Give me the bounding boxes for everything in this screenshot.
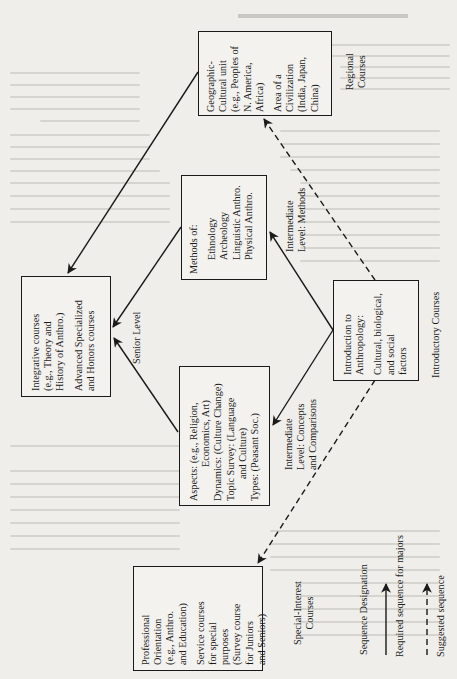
aspects-line-3: Dynamics: (Culture Change) <box>212 383 224 501</box>
methods-line-3: Archeology <box>218 185 230 260</box>
integrative-line-3: History of Anthro.) <box>54 300 66 391</box>
box-introduction: Introduction to Anthropology: Cultural, … <box>333 280 419 381</box>
professional-line-5: Service courses <box>195 601 207 665</box>
methods-line-1: Methods of: <box>188 185 200 274</box>
geographic-line-7: Civilization <box>284 46 296 112</box>
integrative-line-1: Integrative courses <box>30 300 42 391</box>
integrative-line-4: Advanced Specialized <box>73 300 85 391</box>
integrative-line-5: and Honors courses <box>85 300 97 391</box>
geographic-line-1: Geographic- <box>205 46 217 112</box>
professional-line-3: (e.g., Anthro. <box>164 601 176 665</box>
legend-required-label: Required sequence for majors <box>394 535 406 657</box>
professional-line-7: purposes <box>219 601 231 665</box>
professional-line-2: Orientation <box>152 601 164 665</box>
label-introductory-courses: Introductory Courses <box>430 292 442 378</box>
methods-line-2: Ethnology <box>206 185 218 260</box>
label-intermediate-concepts: Intermediate Level: Concepts and Compari… <box>283 399 319 470</box>
aspects-line-4: Topic Survey: (Language <box>225 383 237 501</box>
professional-line-8: (Survey course <box>231 601 243 665</box>
aspects-line-5: and Culture) <box>237 383 249 501</box>
professional-line-9: for Juniors <box>244 601 256 665</box>
intro-line-1: Introduction to <box>342 293 354 375</box>
geographic-line-9: China) <box>309 46 321 112</box>
box-methods: Methods of: Ethnology Archeology Linguis… <box>181 175 267 280</box>
box-aspects: Aspects: (e.g., Religion, Economics, Art… <box>179 366 270 506</box>
professional-line-10: and Seniors) <box>256 601 268 665</box>
geographic-line-6: Area of a <box>272 46 284 112</box>
arrow-geographic-to-integrative <box>68 72 198 273</box>
arrow-methods-to-integrative <box>113 227 181 327</box>
book-page: Geographic- Cultural unit (e.g., Peoples… <box>0 0 457 679</box>
professional-line-6: for special <box>207 601 219 665</box>
arrow-intro-to-geographic <box>264 119 375 280</box>
intro-line-3: Cultural, biological, <box>372 293 384 375</box>
geographic-line-3: (e.g., Peoples of <box>229 46 241 112</box>
label-regional-courses: Regional Courses <box>344 53 368 90</box>
professional-line-1: Professional <box>140 601 152 665</box>
geographic-line-5: Africa) <box>254 46 266 112</box>
label-intermediate-methods: Intermediate Level: Methods <box>284 188 308 252</box>
intro-line-5: factors <box>397 293 409 375</box>
geographic-line-8: (India, Japan, <box>296 46 308 112</box>
legend-title: Sequence Designation <box>358 564 370 655</box>
legend-suggested-label: Suggested sequence <box>435 575 447 657</box>
methods-line-4: Linguistic Anthro. <box>231 185 243 260</box>
box-professional-orientation: Professional Orientation (e.g., Anthro. … <box>133 566 263 671</box>
label-special-interest: Special-Interest Courses <box>292 581 316 645</box>
aspects-line-6: Types: (Peasant Soc.) <box>249 383 261 501</box>
integrative-line-2: (e.g., Theory and <box>42 300 54 391</box>
intro-line-2: Anthropology: <box>354 293 366 375</box>
box-integrative: Integrative courses (e.g., Theory and Hi… <box>21 276 111 397</box>
geographic-line-2: Cultural unit <box>217 46 229 112</box>
professional-line-4: and Education) <box>177 601 189 665</box>
aspects-line-1: Aspects: (e.g., Religion, <box>188 383 200 501</box>
box-geographic-cultural-unit: Geographic- Cultural unit (e.g., Peoples… <box>198 31 332 116</box>
label-senior-level: Senior Level <box>131 312 143 364</box>
geographic-line-4: N. America, <box>242 46 254 112</box>
intro-line-4: and social <box>385 293 397 375</box>
methods-line-5: Physical Anthro. <box>243 185 255 260</box>
arrow-aspects-to-integrative <box>114 338 178 432</box>
aspects-line-2: Economics, Art) <box>200 383 212 501</box>
